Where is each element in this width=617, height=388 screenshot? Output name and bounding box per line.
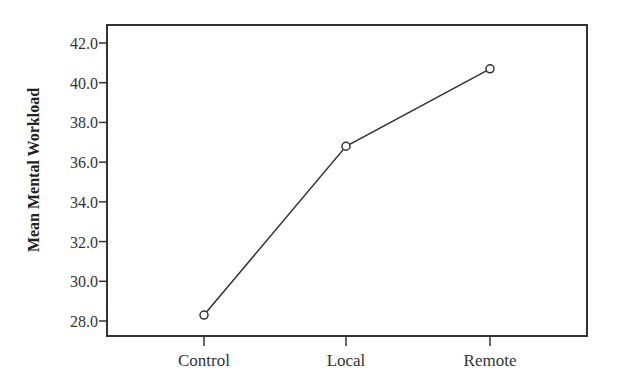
line-chart: 42.040.038.036.034.032.030.028.0 Control… bbox=[0, 0, 617, 388]
data-point-marker bbox=[486, 65, 494, 73]
y-tick-label: 32.0 bbox=[70, 234, 98, 251]
x-axis-ticks: ControlLocalRemote bbox=[178, 336, 516, 370]
y-tick-label: 38.0 bbox=[70, 114, 98, 131]
y-axis-ticks: 42.040.038.036.034.032.030.028.0 bbox=[70, 35, 107, 330]
x-tick-label: Control bbox=[178, 351, 230, 370]
y-tick-label: 28.0 bbox=[70, 313, 98, 330]
x-tick-label: Remote bbox=[464, 351, 517, 370]
y-tick-label: 36.0 bbox=[70, 154, 98, 171]
y-tick-label: 30.0 bbox=[70, 273, 98, 290]
data-point-markers bbox=[200, 65, 494, 319]
data-point-marker bbox=[200, 311, 208, 319]
series-line bbox=[204, 69, 490, 315]
y-tick-label: 34.0 bbox=[70, 194, 98, 211]
y-tick-label: 40.0 bbox=[70, 75, 98, 92]
x-tick-label: Local bbox=[327, 351, 366, 370]
data-point-marker bbox=[342, 142, 350, 150]
plot-frame bbox=[107, 25, 587, 336]
y-tick-label: 42.0 bbox=[70, 35, 98, 52]
